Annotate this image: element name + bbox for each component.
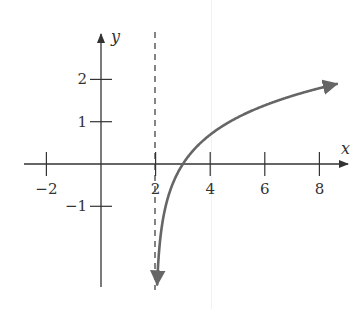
x-tick-label: 8 (315, 180, 325, 198)
y-tick-label: 2 (77, 70, 87, 88)
x-tick-label: 2 (151, 180, 161, 198)
x-tick-label: 4 (205, 180, 215, 198)
log-function-graph: −22468 −112 x y (0, 0, 364, 309)
y-ticks: −112 (65, 70, 112, 215)
x-ticks: −22468 (35, 152, 324, 198)
x-tick-label: 6 (260, 180, 270, 198)
y-tick-label: −1 (65, 197, 87, 215)
function-curve (157, 84, 337, 285)
y-tick-label: 1 (77, 113, 87, 131)
x-axis-label: x (341, 139, 350, 158)
x-tick-label: −2 (35, 180, 57, 198)
y-axis-label: y (110, 27, 121, 46)
